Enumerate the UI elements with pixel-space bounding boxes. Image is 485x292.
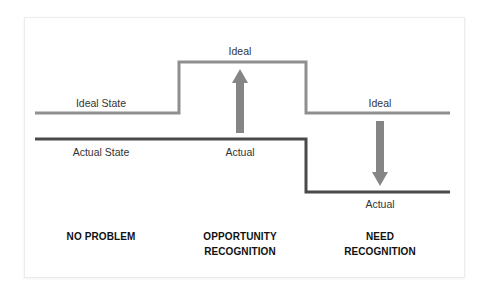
need-ideal-label: Ideal — [369, 97, 392, 109]
ideal-state-label: Ideal State — [76, 97, 126, 109]
down-arrow-icon — [372, 121, 388, 186]
up-arrow-icon — [232, 69, 248, 133]
category-opportunity-recognition: OPPORTUNITY RECOGNITION — [203, 229, 276, 259]
category-line: NEED — [344, 229, 416, 244]
category-line: OPPORTUNITY — [203, 229, 276, 244]
actual-state-label: Actual State — [73, 146, 130, 158]
category-line: NO PROBLEM — [67, 229, 136, 244]
need-actual-label: Actual — [365, 198, 394, 210]
category-no-problem: NO PROBLEM — [67, 229, 136, 244]
category-line: RECOGNITION — [203, 244, 276, 259]
opportunity-ideal-label: Ideal — [229, 45, 252, 57]
opportunity-actual-label: Actual — [225, 146, 254, 158]
category-need-recognition: NEED RECOGNITION — [344, 229, 416, 259]
category-line: RECOGNITION — [344, 244, 416, 259]
